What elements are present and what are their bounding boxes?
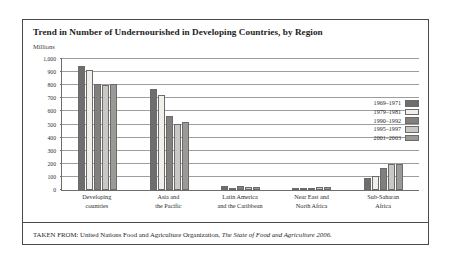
bar-group: [205, 59, 276, 190]
legend-color-swatch: [405, 126, 419, 133]
bar: [316, 187, 323, 190]
bar: [102, 85, 109, 190]
x-axis-category-label-line: Sub-Saharan: [347, 193, 419, 202]
y-axis-tick-label: 500: [47, 122, 56, 128]
bar-group: [133, 59, 204, 190]
x-axis-category-label: Asia andthe Pacific: [133, 193, 205, 210]
x-axis-category-label-line: Near East and: [276, 193, 348, 202]
bar: [94, 84, 101, 190]
x-axis-category-labels: DevelopingcountriesAsia andthe PacificLa…: [61, 193, 419, 210]
x-axis-category-label-line: Africa: [347, 202, 419, 211]
x-axis-category-label: Near East andNorth Africa: [276, 193, 348, 210]
chart-legend: 1969–19711979–19811990–19921995–19972001…: [374, 100, 419, 141]
bar: [237, 186, 244, 190]
x-axis-category-label-line: the Pacific: [133, 202, 205, 211]
x-axis-category-label-line: Latin America: [204, 193, 276, 202]
bar: [292, 188, 299, 190]
x-axis-category-label: Latin Americaand the Caribbean: [204, 193, 276, 210]
x-axis-category-label-line: countries: [61, 202, 133, 211]
source-prefix: TAKEN FROM: United Nations Food and Agri…: [33, 231, 220, 238]
bar: [182, 122, 189, 190]
bar-group: [276, 59, 347, 190]
bar: [324, 187, 331, 190]
bar: [308, 188, 315, 190]
bar: [158, 95, 165, 190]
plot-area: 01002003004005006007008009001,000 Develo…: [33, 53, 419, 203]
legend-color-swatch: [405, 135, 419, 142]
y-axis-tick-label: 700: [47, 95, 56, 101]
source-publication-title: The State of Food and Agriculture 2006.: [222, 231, 332, 238]
y-axis-unit-label: Millions: [33, 43, 55, 50]
legend-item-label: 2001–2003: [374, 135, 401, 141]
bar: [253, 187, 260, 190]
bar: [229, 188, 236, 190]
y-axis-tick-label: 100: [47, 174, 56, 180]
bar: [380, 168, 387, 190]
legend-color-swatch: [405, 100, 419, 107]
bar: [388, 164, 395, 190]
legend-item-label: 1990–1992: [374, 118, 401, 124]
bar: [364, 178, 371, 190]
legend-color-swatch: [405, 117, 419, 124]
y-axis-tick-label: 400: [47, 135, 56, 141]
y-axis-tick-label: 200: [47, 161, 56, 167]
bar: [372, 176, 379, 190]
legend-item: 1969–1971: [374, 100, 419, 107]
x-axis-category-label: Sub-SaharanAfrica: [347, 193, 419, 210]
figure-panel: Trend in Number of Undernourished in Dev…: [22, 19, 429, 245]
legend-item: 2001–2003: [374, 135, 419, 142]
legend-item-label: 1995–1997: [374, 126, 401, 132]
bar: [166, 116, 173, 190]
bar: [110, 84, 117, 191]
bar-groups: [62, 59, 419, 190]
bar: [300, 188, 307, 190]
x-axis-category-label-line: North Africa: [276, 202, 348, 211]
bar: [396, 164, 403, 190]
bar-group: [62, 59, 133, 190]
source-divider: [23, 222, 428, 223]
y-axis-tick-label: 800: [47, 82, 56, 88]
y-axis-tick-label: 0: [53, 187, 56, 193]
plot-frame: 01002003004005006007008009001,000: [61, 59, 419, 191]
legend-color-swatch: [405, 109, 419, 116]
y-axis-tick-label: 1,000: [43, 56, 56, 62]
bar: [78, 66, 85, 190]
chart-title: Trend in Number of Undernourished in Dev…: [33, 27, 323, 37]
bar: [245, 187, 252, 190]
y-axis-tick-label: 900: [47, 69, 56, 75]
x-axis-category-label: Developingcountries: [61, 193, 133, 210]
bar: [221, 186, 228, 190]
legend-item: 1979–1981: [374, 109, 419, 116]
x-axis-category-label-line: Developing: [61, 193, 133, 202]
bar: [86, 70, 93, 190]
legend-item-label: 1979–1981: [374, 109, 401, 115]
bar: [150, 89, 157, 190]
bar: [174, 124, 181, 190]
source-note: TAKEN FROM: United Nations Food and Agri…: [33, 231, 332, 238]
y-axis-tick-label: 600: [47, 108, 56, 114]
legend-item: 1995–1997: [374, 126, 419, 133]
x-axis-category-label-line: Asia and: [133, 193, 205, 202]
legend-item-label: 1969–1971: [374, 100, 401, 106]
x-axis-category-label-line: and the Caribbean: [204, 202, 276, 211]
y-axis-tick-label: 300: [47, 148, 56, 154]
legend-item: 1990–1992: [374, 117, 419, 124]
